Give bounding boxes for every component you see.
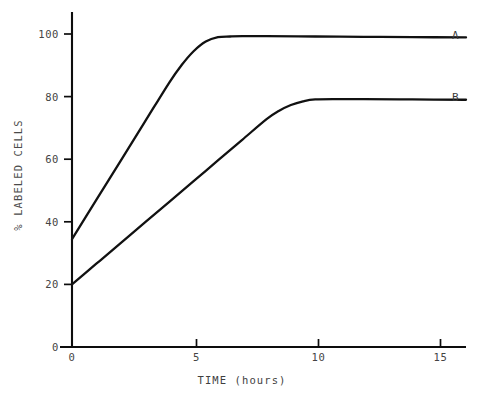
series-line-a (72, 36, 466, 239)
x-tick-label-10: 10 (312, 351, 326, 363)
x-axis-title: TIME (hours) (197, 374, 286, 386)
y-tick-label-0: 0 (52, 341, 59, 353)
y-axis-title: % LABELED CELLS (12, 119, 24, 230)
y-tick-label-60: 60 (45, 153, 59, 165)
x-tick-label-15: 15 (434, 351, 448, 363)
series-line-b (72, 99, 466, 284)
y-tick-label-40: 40 (45, 216, 59, 228)
y-tick-label-80: 80 (45, 91, 59, 103)
line-chart: 100 80 60 40 20 0 0 5 10 15 TIME (hours)… (0, 0, 486, 397)
y-tick-label-100: 100 (38, 28, 59, 40)
y-tick-label-20: 20 (45, 278, 59, 290)
series-label-a: A (452, 29, 459, 42)
x-tick-label-5: 5 (193, 351, 200, 363)
chart-container: 100 80 60 40 20 0 0 5 10 15 TIME (hours)… (0, 0, 486, 397)
series-label-b: B (452, 91, 459, 104)
x-tick-label-0: 0 (69, 351, 76, 363)
